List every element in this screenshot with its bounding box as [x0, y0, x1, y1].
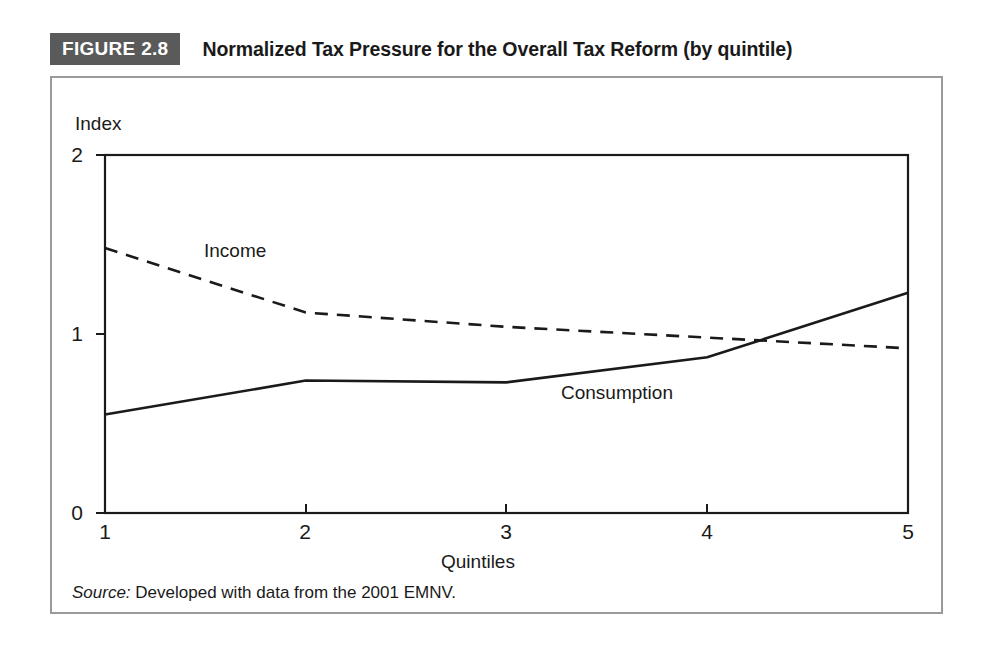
- x-tick-label-2: 2: [290, 520, 320, 544]
- y-tick-label-1: 1: [57, 322, 83, 346]
- figure-header: FIGURE 2.8 Normalized Tax Pressure for t…: [50, 27, 944, 71]
- x-tick-label-5: 5: [893, 520, 923, 544]
- series-label-income: Income: [204, 240, 266, 262]
- figure-title: Normalized Tax Pressure for the Overall …: [202, 38, 792, 61]
- source-note: Source: Developed with data from the 200…: [72, 583, 456, 603]
- y-tick-label-2: 2: [57, 143, 83, 167]
- figure-number-badge: FIGURE 2.8: [50, 33, 180, 65]
- x-tick-label-1: 1: [90, 520, 120, 544]
- x-tick-label-4: 4: [692, 520, 722, 544]
- x-tick-label-3: 3: [491, 520, 521, 544]
- series-label-consumption: Consumption: [561, 382, 673, 404]
- y-tick-label-0: 0: [57, 501, 83, 525]
- source-label: Source:: [72, 583, 131, 602]
- figure-container: FIGURE 2.8 Normalized Tax Pressure for t…: [0, 0, 994, 670]
- source-text: Developed with data from the 2001 EMNV.: [131, 583, 456, 602]
- y-axis-title: Index: [75, 113, 121, 135]
- x-axis-title: Quintiles: [441, 551, 515, 573]
